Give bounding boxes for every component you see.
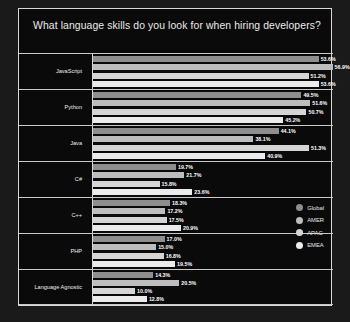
category-label: PHP <box>19 234 87 269</box>
category-group: C#19.7%21.7%15.8%23.6% <box>19 161 333 197</box>
bar-value-label: 16.8% <box>164 253 181 259</box>
bar-row: 45.2% <box>93 117 333 123</box>
bar-row: 44.1% <box>93 128 333 134</box>
chart-panel: What language skills do you look for whe… <box>18 8 332 306</box>
bar-global <box>93 164 176 170</box>
legend-item-global[interactable]: Global <box>296 204 324 211</box>
bar-value-label: 15.8% <box>160 181 177 187</box>
bar-row: 50.7% <box>93 109 333 115</box>
legend-item-apac[interactable]: APAC <box>296 229 324 236</box>
bar-row: 51.2% <box>93 73 333 79</box>
bar-stack: 14.3%20.5%10.0%12.8% <box>93 270 333 304</box>
bar-row: 56.9% <box>93 64 333 70</box>
bar-emea <box>93 117 283 123</box>
category-label: JavaScript <box>19 54 87 89</box>
legend-item-amer[interactable]: AMER <box>296 217 324 224</box>
bar-value-label: 53.6% <box>319 56 336 62</box>
bar-amer <box>93 172 184 178</box>
bar-global <box>93 236 165 242</box>
category-group: Python49.5%51.6%50.7%45.2% <box>19 89 333 125</box>
bar-global <box>93 92 301 98</box>
bar-emea <box>93 189 192 195</box>
bar-apac <box>93 253 164 259</box>
bar-row: 21.7% <box>93 172 333 178</box>
bar-value-label: 45.2% <box>283 117 300 123</box>
bar-emea <box>93 153 265 159</box>
bar-row: 14.3% <box>93 272 333 278</box>
bar-amer <box>93 136 253 142</box>
bar-amer <box>93 244 156 250</box>
legend-label: EMEA <box>307 242 323 248</box>
category-group: PHP17.0%15.0%16.8%19.5% <box>19 233 333 269</box>
category-label: Language Agnostic <box>19 270 87 304</box>
bar-value-label: 19.7% <box>176 164 193 170</box>
bar-global <box>93 200 170 206</box>
bar-emea <box>93 81 319 87</box>
bar-stack: 49.5%51.6%50.7%45.2% <box>93 90 333 125</box>
legend-swatch-icon <box>296 242 303 249</box>
bar-emea <box>93 296 147 302</box>
bar-value-label: 10.0% <box>135 288 152 294</box>
bar-row: 23.6% <box>93 189 333 195</box>
category-label: Java <box>19 126 87 161</box>
legend-item-emea[interactable]: EMEA <box>296 242 324 249</box>
bar-amer <box>93 280 179 286</box>
bar-row: 20.5% <box>93 280 333 286</box>
bar-apac <box>93 73 309 79</box>
bar-value-label: 50.7% <box>306 109 323 115</box>
bar-apac <box>93 145 309 151</box>
plot-area: JavaScript53.6%56.9%51.2%53.6%Python49.5… <box>19 53 333 305</box>
bar-stack: 19.7%21.7%15.8%23.6% <box>93 162 333 197</box>
bar-row: 16.8% <box>93 253 333 259</box>
legend-label: Global <box>307 205 324 211</box>
bar-global <box>93 272 153 278</box>
category-group: Java44.1%38.1%51.3%40.9% <box>19 125 333 161</box>
bar-value-label: 12.8% <box>147 296 164 302</box>
bar-global <box>93 56 319 62</box>
bar-value-label: 51.2% <box>309 73 326 79</box>
bar-value-label: 38.1% <box>253 136 270 142</box>
bar-value-label: 49.5% <box>301 92 318 98</box>
chart-title: What language skills do you look for whe… <box>33 20 321 31</box>
bar-value-label: 20.9% <box>181 225 198 231</box>
bar-value-label: 51.3% <box>309 145 326 151</box>
bar-value-label: 56.9% <box>333 64 350 70</box>
bar-row: 49.5% <box>93 92 333 98</box>
bar-row: 53.6% <box>93 81 333 87</box>
bar-amer <box>93 100 310 106</box>
bar-value-label: 17.2% <box>165 208 182 214</box>
bar-apac <box>93 181 160 187</box>
category-label: C# <box>19 162 87 197</box>
bar-stack: 44.1%38.1%51.3%40.9% <box>93 126 333 161</box>
bar-row: 53.6% <box>93 56 333 62</box>
bar-value-label: 40.9% <box>265 153 282 159</box>
bar-value-label: 17.0% <box>165 236 182 242</box>
bar-row: 51.6% <box>93 100 333 106</box>
bar-value-label: 23.6% <box>192 189 209 195</box>
bar-row: 12.8% <box>93 296 333 302</box>
bar-row: 19.7% <box>93 164 333 170</box>
legend-swatch-icon <box>296 204 303 211</box>
bar-emea <box>93 225 181 231</box>
category-label: C++ <box>19 198 87 233</box>
bar-amer <box>93 208 165 214</box>
legend-label: APAC <box>307 230 322 236</box>
bar-value-label: 21.7% <box>184 172 201 178</box>
bar-row: 15.8% <box>93 181 333 187</box>
bar-value-label: 17.5% <box>167 217 184 223</box>
category-group: C++18.3%17.2%17.5%20.9% <box>19 197 333 233</box>
bar-row: 51.3% <box>93 145 333 151</box>
bar-value-label: 18.3% <box>170 200 187 206</box>
bar-value-label: 15.0% <box>156 244 173 250</box>
category-group: JavaScript53.6%56.9%51.2%53.6% <box>19 53 333 89</box>
bar-stack: 53.6%56.9%51.2%53.6% <box>93 54 333 89</box>
bar-row: 38.1% <box>93 136 333 142</box>
bar-apac <box>93 109 306 115</box>
bar-amer <box>93 64 333 70</box>
bar-apac <box>93 288 135 294</box>
bar-value-label: 20.5% <box>179 280 196 286</box>
bar-value-label: 19.5% <box>175 261 192 267</box>
bar-value-label: 53.6% <box>319 81 336 87</box>
bar-row: 19.5% <box>93 261 333 267</box>
category-label: Python <box>19 90 87 125</box>
